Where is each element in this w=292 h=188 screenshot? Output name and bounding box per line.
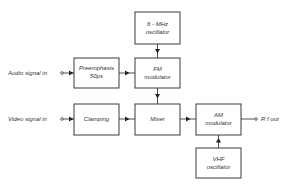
block-fm-modulator-label-1: FM [153,66,162,72]
block-mixer: Mixer [135,104,180,135]
video-input: Video signal in [8,116,74,122]
rf-output-label: R f out [261,116,279,122]
arrow-video-to-clamping [69,117,74,122]
block-clamping: Clamping [74,104,119,135]
block-am-modulator-label-2: modulator [205,120,233,126]
block-am-modulator-label-1: AM [213,112,223,118]
arrow-6mhz-to-fm [155,49,160,54]
block-vhf-oscillator-label-1: VHF [213,156,225,162]
block-clamping-label: Clamping [84,116,110,122]
arrow-audio-to-preemphasis [69,71,74,76]
block-fm-modulator: FM modulator [135,58,180,88]
arrow-fm-to-mixer [155,94,160,99]
block-am-modulator: AM modulator [196,104,241,135]
arrow-clamping-to-mixer [125,117,130,122]
rf-output: R f out [241,116,279,122]
block-fm-modulator-label-2: modulator [144,74,172,80]
block-preemphasis-label-1: Preemphasis [79,65,114,71]
audio-input-label: Audio signal in [7,70,48,76]
arrow-preemphasis-to-fm [125,71,130,76]
block-vhf-oscillator: VHF oscillator [196,148,241,178]
audio-input-terminal [61,72,64,75]
block-mixer-label: Mixer [150,116,166,122]
arrow-vhf-to-am [216,138,221,143]
video-input-label: Video signal in [8,116,48,122]
block-6mhz-oscillator-label-2: oscillator [146,29,171,35]
block-preemphasis-label-2: 50µs [90,73,103,79]
video-input-terminal [61,118,64,121]
block-preemphasis: Preemphasis 50µs [74,58,119,88]
block-vhf-oscillator-label-2: oscillator [207,164,232,170]
block-diagram: 6 - MHz oscillator FM modulator Preempha… [0,0,292,188]
block-6mhz-oscillator-label-1: 6 - MHz [147,21,168,27]
rf-output-terminal [255,118,258,121]
audio-input: Audio signal in [7,70,74,76]
block-6mhz-oscillator: 6 - MHz oscillator [135,12,180,44]
arrow-mixer-to-am [186,117,191,122]
